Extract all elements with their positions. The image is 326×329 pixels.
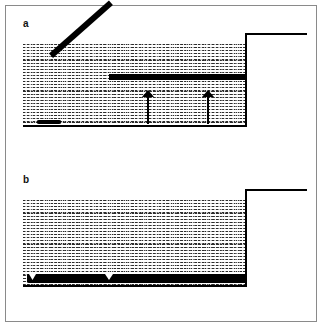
arrow-shaft [147,96,149,124]
figure-frame: a [5,5,317,322]
panel-b-label: b [23,175,29,185]
arrow-shaft [207,96,209,124]
panel-a-arrow-left [141,90,155,124]
panel-a: a [6,6,318,164]
panel-b-barrier-collapsed [27,274,247,283]
figure-canvas: a [0,0,326,329]
panel-a-tank-floor [23,125,247,127]
panel-b-bank-top [245,189,307,191]
panel-a-label: a [23,19,29,29]
panel-a-tank-wall [245,33,247,127]
panel-a-barrier-horizontal [109,74,247,80]
panel-a-bank-top [245,33,307,35]
panel-b-tank-wall [245,189,247,287]
panel-b-tank-floor [23,285,247,287]
panel-b: b [6,164,318,322]
panel-a-barrier-foot [37,120,61,124]
panel-a-arrow-right [201,90,215,124]
